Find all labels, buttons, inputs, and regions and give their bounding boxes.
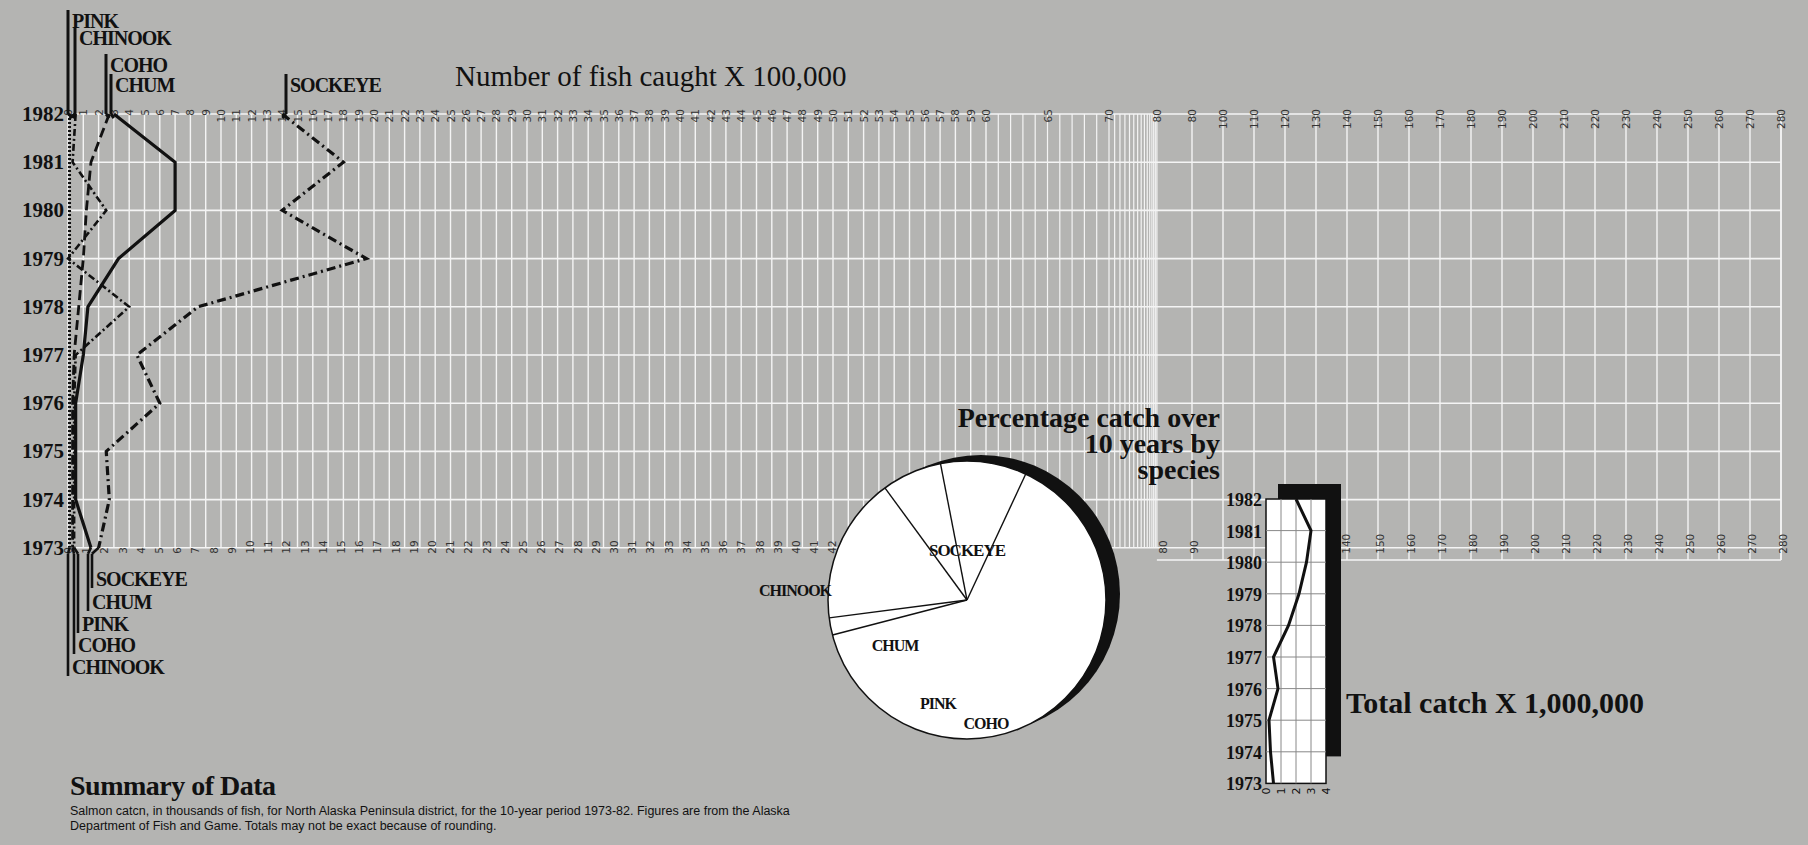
total-x-tick: 3 [1305, 787, 1318, 794]
total-chart-title: Total catch X 1,000,000 [1346, 686, 1644, 720]
x-tick-label: 17 [371, 540, 383, 553]
x-tick-label: 29 [506, 109, 518, 122]
total-year-label: 1978 [1226, 616, 1262, 636]
year-label: 1981 [22, 150, 64, 174]
x-tick-label: 11 [230, 109, 242, 122]
series-line-sockeye [99, 114, 367, 548]
x-tick-label: 39 [659, 109, 671, 122]
x-tick-label: 4 [135, 547, 147, 554]
x-tick-label: 30 [521, 109, 533, 122]
x-tick-label: 250 [1684, 534, 1696, 554]
x-tick-label: 230 [1620, 109, 1632, 129]
x-tick-label: 11 [262, 540, 274, 553]
x-tick-label: 38 [643, 109, 655, 122]
x-tick-label: 55 [904, 109, 916, 122]
x-tick-label: 270 [1746, 534, 1758, 554]
x-tick-label: 100 [1217, 109, 1229, 129]
x-tick-label: 23 [414, 109, 426, 122]
x-tick-label: 250 [1682, 109, 1694, 129]
x-tick-label: 22 [462, 540, 474, 553]
x-tick-label: 41 [808, 540, 820, 553]
x-tick-label: 30 [608, 540, 620, 553]
x-tick-label: 27 [475, 109, 487, 122]
top-species-label-chinook: CHINOOK [79, 27, 172, 49]
x-tick-label: 32 [644, 540, 656, 553]
x-tick-label: 220 [1589, 109, 1601, 129]
x-tick-label: 280 [1777, 534, 1789, 554]
x-tick-label: 24 [499, 540, 511, 554]
pie-label-sockeye: SOCKEYE [929, 541, 1006, 560]
total-year-label: 1974 [1226, 743, 1262, 763]
x-tick-label: 230 [1622, 534, 1634, 554]
x-tick-label: 170 [1434, 109, 1446, 129]
x-tick-label: 90 [1188, 540, 1200, 553]
x-tick-label: 190 [1496, 109, 1508, 129]
total-year-label: 1980 [1226, 553, 1262, 573]
x-tick-label: 27 [553, 540, 565, 553]
x-tick-label: 14 [317, 540, 329, 554]
x-tick-label: 32 [552, 109, 564, 122]
x-tick-label: 21 [383, 109, 395, 122]
x-tick-label: 31 [536, 109, 548, 122]
x-tick-label: 18 [337, 109, 349, 122]
total-year-label: 1975 [1226, 711, 1262, 731]
x-tick-label: 2 [93, 109, 105, 116]
x-tick-label: 20 [426, 540, 438, 553]
x-tick-label: 150 [1374, 534, 1386, 554]
year-label: 1980 [22, 198, 64, 222]
x-tick-label: 180 [1467, 534, 1479, 554]
x-tick-label: 46 [766, 109, 778, 123]
x-tick-label: 8 [208, 547, 220, 554]
x-tick-label: 58 [949, 109, 961, 122]
x-tick-label: 19 [353, 109, 365, 122]
x-tick-label: 13 [261, 109, 273, 122]
pie-label-chum: CHUM [872, 637, 920, 654]
x-tick-label: 10 [215, 109, 227, 122]
x-tick-label: 26 [535, 540, 547, 554]
x-tick-label: 9 [200, 109, 212, 116]
x-tick-label: 140 [1340, 534, 1352, 554]
x-tick-label: 18 [390, 540, 402, 553]
total-x-tick: 2 [1290, 787, 1303, 794]
total-catch-chart: 1982198119801979197819771976197519741973… [1226, 484, 1341, 794]
x-tick-label: 20 [368, 109, 380, 122]
x-tick-label: 13 [299, 540, 311, 553]
x-tick-label: 2 [98, 547, 110, 554]
x-tick-label: 33 [663, 540, 675, 553]
x-tick-label: 29 [590, 540, 602, 553]
x-tick-label: 8 [184, 109, 196, 116]
total-x-tick: 4 [1320, 787, 1333, 794]
pie-label-chinook: CHINOOK [759, 582, 833, 599]
x-tick-label: 120 [1279, 109, 1291, 129]
total-year-label: 1973 [1226, 774, 1262, 794]
x-tick-label: 16 [307, 109, 319, 123]
x-tick-label: 40 [674, 109, 686, 122]
x-tick-label: 80 [1157, 540, 1169, 553]
total-x-tick: 0 [1260, 787, 1273, 794]
x-tick-label: 15 [292, 109, 304, 122]
summary-heading: Summary of Data [70, 770, 830, 802]
x-tick-label: 34 [582, 109, 594, 123]
x-tick-label: 38 [754, 540, 766, 553]
x-tick-label: 5 [139, 109, 151, 116]
x-tick-label: 57 [934, 109, 946, 122]
x-tick-label: 240 [1653, 534, 1665, 554]
x-tick-label: 23 [481, 540, 493, 553]
year-label: 1977 [22, 343, 64, 367]
x-tick-label: 49 [812, 109, 824, 122]
pie-title-line-3: species [905, 457, 1220, 483]
x-tick-label: 17 [322, 109, 334, 122]
x-tick-label: 180 [1465, 109, 1477, 129]
x-tick-label: 28 [572, 540, 584, 553]
total-year-label: 1976 [1226, 680, 1262, 700]
x-tick-label: 24 [429, 109, 441, 123]
x-tick-label: 34 [681, 540, 693, 554]
x-tick-label: 53 [873, 109, 885, 122]
year-label: 1973 [22, 536, 64, 560]
x-tick-label: 10 [244, 540, 256, 553]
top-species-label-coho: COHO [110, 54, 168, 76]
year-label: 1982 [22, 102, 64, 126]
bottom-species-label-pink: PINK [82, 613, 129, 635]
x-tick-label: 160 [1405, 534, 1417, 554]
x-tick-label: 16 [353, 540, 365, 554]
